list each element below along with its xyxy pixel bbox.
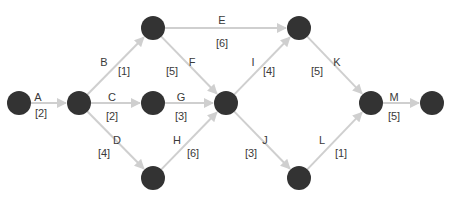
event-node-n8 bbox=[287, 166, 311, 190]
event-node-n5 bbox=[141, 166, 165, 190]
activity-duration-f: [5] bbox=[166, 65, 178, 77]
activity-name-i: I bbox=[251, 56, 254, 68]
event-node-n7 bbox=[287, 16, 311, 40]
event-node-n3 bbox=[141, 16, 165, 40]
event-node-n4 bbox=[141, 91, 165, 115]
activity-duration-d: [4] bbox=[98, 147, 110, 159]
event-node-n2 bbox=[67, 91, 91, 115]
event-node-n10 bbox=[420, 91, 444, 115]
activity-duration-g: [3] bbox=[175, 110, 187, 122]
activity-name-a: A bbox=[34, 91, 42, 103]
activity-name-j: J bbox=[262, 134, 268, 146]
activity-duration-a: [2] bbox=[35, 107, 47, 119]
activity-name-d: D bbox=[113, 134, 121, 146]
activity-network-diagram: A[2]B[1]C[2]D[4]E[6]F[5]G[3]H[6]I[4]J[3]… bbox=[0, 0, 451, 200]
activity-name-e: E bbox=[218, 14, 225, 26]
activity-duration-e: [6] bbox=[216, 37, 228, 49]
event-node-n9 bbox=[359, 91, 383, 115]
activity-name-l: L bbox=[319, 134, 325, 146]
activity-name-f: F bbox=[189, 56, 196, 68]
activity-duration-m: [5] bbox=[388, 110, 400, 122]
activity-arrow-b bbox=[87, 37, 143, 94]
activity-arrow-h bbox=[161, 112, 217, 169]
activity-name-c: C bbox=[108, 91, 116, 103]
activity-name-b: B bbox=[100, 56, 107, 68]
activity-name-g: G bbox=[177, 91, 186, 103]
activity-duration-k: [5] bbox=[311, 65, 323, 77]
activity-duration-j: [3] bbox=[245, 147, 257, 159]
activity-duration-i: [4] bbox=[263, 65, 275, 77]
event-node-n1 bbox=[7, 91, 31, 115]
event-node-n6 bbox=[214, 91, 238, 115]
activity-name-m: M bbox=[389, 91, 398, 103]
activity-labels: A[2]B[1]C[2]D[4]E[6]F[5]G[3]H[6]I[4]J[3]… bbox=[34, 14, 400, 159]
activity-name-k: K bbox=[333, 56, 341, 68]
activity-duration-b: [1] bbox=[118, 65, 130, 77]
activity-duration-h: [6] bbox=[187, 147, 199, 159]
activity-arrow-l bbox=[307, 112, 362, 169]
activity-duration-c: [2] bbox=[106, 110, 118, 122]
activity-name-h: H bbox=[173, 134, 181, 146]
activity-duration-l: [1] bbox=[335, 147, 347, 159]
